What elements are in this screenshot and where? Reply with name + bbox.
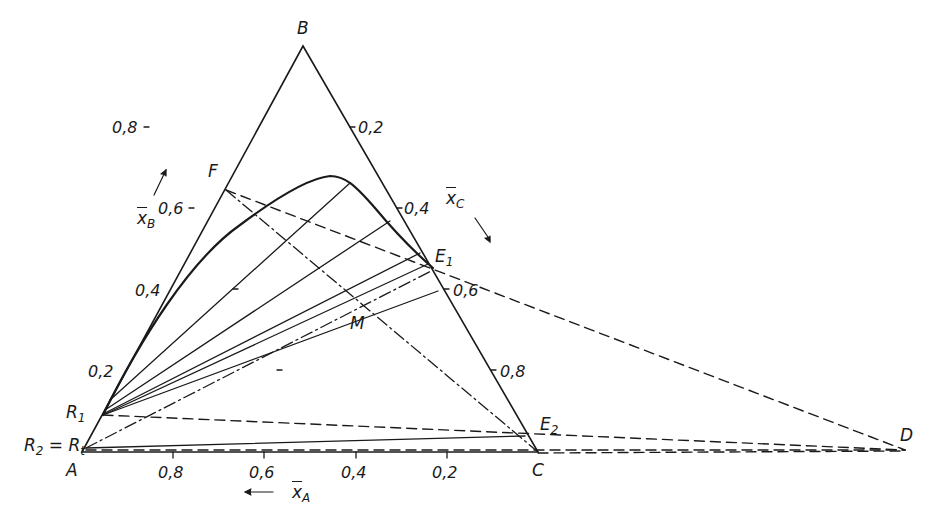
tick-label-xa-06: 0,6	[249, 465, 274, 481]
tick-label-xb-06: 0,6	[158, 201, 183, 217]
arrow-xC	[475, 218, 490, 242]
tick-label-xb-04: 0,4	[135, 283, 160, 299]
tick-label-xa-02: 0,2	[432, 465, 457, 481]
axis-title-xa: xA	[292, 484, 310, 504]
tick-label-xa-08: 0,8	[158, 465, 183, 481]
vertex-label-b: B	[297, 20, 309, 37]
tick-label-xa-04: 0,4	[341, 465, 366, 481]
ternary-diagram: A B C D F M E1 E2 R1 R2 = Rt 0,8 0,6 0,4…	[0, 0, 938, 524]
tick-label-xb-08: 0,8	[112, 120, 137, 136]
vertex-label-a: A	[66, 462, 78, 479]
point-label-r2-rt: R2 = Rt	[24, 437, 85, 457]
arrow-xB	[154, 170, 166, 195]
arrow-xA	[245, 489, 273, 495]
axis-title-xc: xC	[446, 190, 464, 210]
point-label-e2: E2	[540, 416, 558, 436]
axis-title-xb: xB	[137, 210, 155, 230]
diagram-canvas	[0, 0, 938, 524]
vertex-label-c: C	[532, 462, 544, 479]
point-label-r1: R1	[66, 404, 85, 424]
point-label-f: F	[208, 163, 218, 180]
tick-label-xc-06: 0,6	[453, 283, 478, 299]
tick-label-xc-04: 0,4	[404, 201, 429, 217]
tick-label-xb-02: 0,2	[88, 364, 113, 380]
tick-label-xc-08: 0,8	[500, 364, 525, 380]
tick-label-xc-02: 0,2	[358, 120, 383, 136]
point-label-e1: E1	[435, 248, 453, 268]
ternary-triangle	[82, 46, 538, 452]
point-label-d: D	[900, 427, 913, 444]
ticks-xA	[173, 452, 447, 458]
operating-lines	[86, 190, 905, 453]
point-label-m: M	[350, 315, 365, 332]
